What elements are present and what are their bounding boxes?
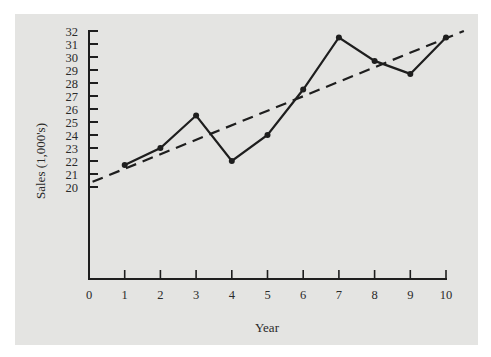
x-tick-label: 7 bbox=[336, 288, 342, 302]
x-tick-label: 6 bbox=[300, 288, 306, 302]
x-tick-label: 2 bbox=[157, 288, 163, 302]
y-tick-label: 28 bbox=[66, 77, 79, 91]
y-tick-label: 22 bbox=[66, 155, 79, 169]
data-point-marker bbox=[157, 145, 163, 151]
data-point-marker bbox=[229, 158, 235, 164]
x-tick-label: 5 bbox=[264, 288, 270, 302]
y-tick-label: 32 bbox=[66, 25, 79, 39]
sales-line bbox=[125, 38, 446, 165]
x-tick-label: 4 bbox=[229, 288, 236, 302]
y-tick-label: 24 bbox=[66, 129, 79, 143]
y-axis-ticks: 20212223242526272829303132 bbox=[66, 25, 99, 195]
y-tick-label: 31 bbox=[66, 38, 79, 52]
y-tick-label: 23 bbox=[66, 142, 79, 156]
data-point-marker bbox=[443, 35, 449, 41]
x-axis-ticks: 012345678910 bbox=[86, 270, 452, 302]
x-tick-label: 9 bbox=[407, 288, 413, 302]
y-tick-label: 27 bbox=[66, 90, 79, 104]
data-point-marker bbox=[372, 58, 378, 64]
data-point-marker bbox=[122, 162, 128, 168]
data-point-marker bbox=[407, 71, 413, 77]
y-tick-label: 25 bbox=[66, 116, 79, 130]
y-tick-label: 30 bbox=[66, 51, 79, 65]
x-tick-label: 1 bbox=[122, 288, 128, 302]
line-chart: 20212223242526272829303132 012345678910 … bbox=[0, 0, 491, 357]
y-axis-title: Sales (1,000's) bbox=[33, 123, 48, 199]
y-tick-label: 21 bbox=[66, 168, 79, 182]
y-tick-label: 29 bbox=[66, 64, 79, 78]
data-point-marker bbox=[300, 87, 306, 93]
y-tick-label: 26 bbox=[66, 103, 79, 117]
sales-series bbox=[122, 35, 449, 168]
data-point-marker bbox=[265, 132, 271, 138]
x-axis-title: Year bbox=[255, 320, 280, 335]
x-tick-label: 0 bbox=[86, 288, 92, 302]
x-tick-label: 3 bbox=[193, 288, 199, 302]
data-point-marker bbox=[336, 35, 342, 41]
x-tick-label: 10 bbox=[440, 288, 453, 302]
data-point-marker bbox=[193, 113, 199, 119]
trend-dashed-line bbox=[93, 31, 464, 182]
x-tick-label: 8 bbox=[371, 288, 377, 302]
y-tick-label: 20 bbox=[66, 181, 79, 195]
trend-line bbox=[93, 31, 464, 182]
